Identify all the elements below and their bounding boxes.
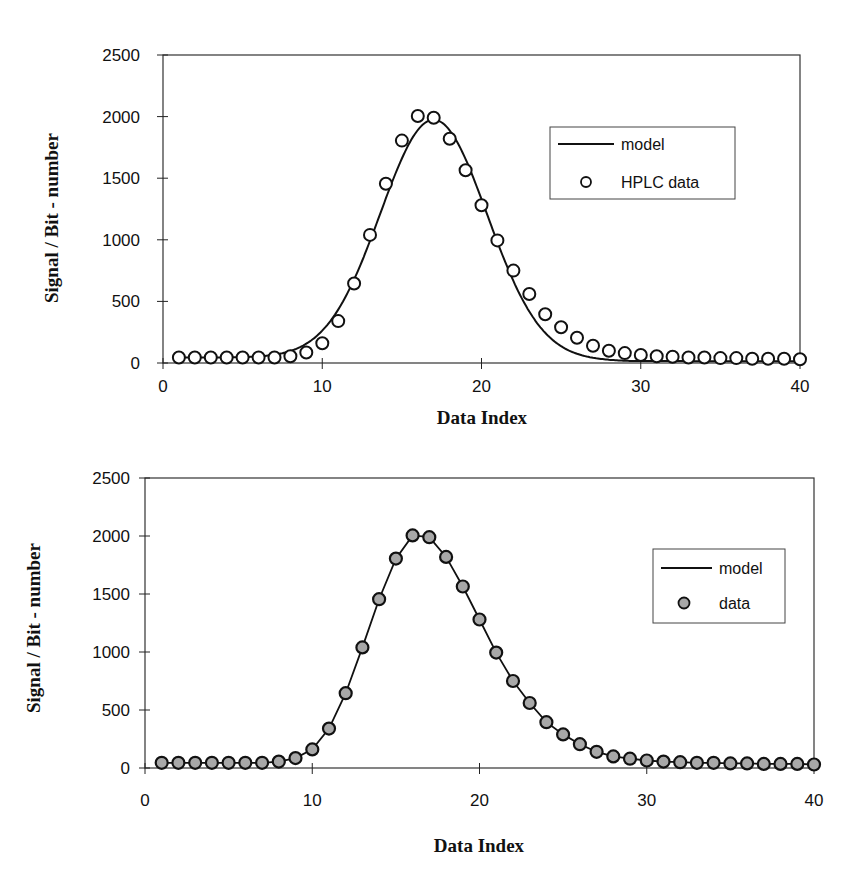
- data-point: [156, 757, 168, 769]
- data-point: [256, 757, 268, 769]
- data-point: [332, 315, 344, 327]
- figure: 05001000150020002500 010203040 Data Inde…: [0, 0, 868, 894]
- data-point: [708, 757, 720, 769]
- data-point: [746, 353, 758, 365]
- y-tick-label: 500: [102, 701, 130, 720]
- data-point: [428, 112, 440, 124]
- data-point: [290, 752, 302, 764]
- x-axis-label-bottom: Data Index: [434, 835, 525, 856]
- data-point: [173, 352, 185, 364]
- data-point: [540, 716, 552, 728]
- data-point: [380, 178, 392, 190]
- data-point: [730, 352, 742, 364]
- data-point: [491, 234, 503, 246]
- data-point: [651, 350, 663, 362]
- x-tick-label: 20: [472, 377, 491, 396]
- data-point: [348, 278, 360, 290]
- legend-gray-circle-icon: [679, 598, 690, 609]
- x-axis-ticks-bottom: 010203040: [140, 763, 823, 810]
- data-point: [356, 641, 368, 653]
- y-axis-ticks-bottom: 05001000150020002500: [92, 469, 150, 778]
- data-point: [667, 351, 679, 363]
- legend-data-label: HPLC data: [621, 174, 699, 191]
- data-point: [658, 756, 670, 768]
- x-tick-label: 30: [637, 791, 656, 810]
- data-point: [619, 347, 631, 359]
- data-point: [490, 647, 502, 659]
- y-tick-label: 2000: [102, 108, 140, 127]
- data-point: [396, 135, 408, 147]
- data-point: [440, 551, 452, 563]
- x-tick-label: 20: [470, 791, 489, 810]
- data-point: [407, 529, 419, 541]
- data-point: [698, 352, 710, 364]
- data-point: [691, 757, 703, 769]
- chart-top: 05001000150020002500 010203040 Data Inde…: [41, 46, 809, 428]
- y-tick-label: 0: [131, 354, 140, 373]
- data-point: [189, 757, 201, 769]
- data-point: [808, 759, 820, 771]
- data-point: [523, 288, 535, 300]
- data-point: [172, 757, 184, 769]
- data-point: [571, 332, 583, 344]
- legend-open-circle-icon: [581, 177, 591, 187]
- data-point: [524, 697, 536, 709]
- data-point: [591, 746, 603, 758]
- y-tick-label: 1000: [102, 231, 140, 250]
- data-point: [557, 728, 569, 740]
- data-point: [574, 738, 586, 750]
- y-tick-label: 500: [112, 292, 140, 311]
- legend-data-label: data: [719, 595, 750, 612]
- data-point: [641, 755, 653, 767]
- data-point: [724, 757, 736, 769]
- data-point: [323, 723, 335, 735]
- data-point: [476, 199, 488, 211]
- data-point: [316, 337, 328, 349]
- chart-bottom: 05001000150020002500 010203040 Data Inde…: [23, 469, 823, 856]
- x-tick-label: 10: [303, 791, 322, 810]
- data-point: [364, 229, 376, 241]
- data-point: [587, 340, 599, 352]
- data-point: [775, 758, 787, 770]
- y-tick-label: 1000: [92, 643, 130, 662]
- y-axis-label-bottom: Signal / Bit - number: [23, 542, 44, 713]
- data-point: [237, 352, 249, 364]
- legend-model-label: model: [719, 560, 763, 577]
- x-tick-label: 10: [313, 377, 332, 396]
- data-point: [507, 675, 519, 687]
- y-tick-label: 2000: [92, 527, 130, 546]
- y-tick-label: 2500: [102, 46, 140, 65]
- data-point: [373, 593, 385, 605]
- data-point: [683, 352, 695, 364]
- data-point: [253, 352, 265, 364]
- data-point: [223, 757, 235, 769]
- data-point: [412, 110, 424, 122]
- y-axis-label-top: Signal / Bit - number: [41, 132, 62, 303]
- data-point: [306, 743, 318, 755]
- data-point: [741, 757, 753, 769]
- y-tick-label: 2500: [92, 469, 130, 488]
- data-point: [635, 349, 647, 361]
- data-point: [607, 750, 619, 762]
- x-tick-label: 40: [791, 377, 810, 396]
- legend-bottom: model data: [653, 549, 785, 623]
- data-point: [189, 352, 201, 364]
- x-tick-label: 0: [158, 377, 167, 396]
- data-point: [791, 758, 803, 770]
- data-point: [778, 353, 790, 365]
- x-tick-label: 40: [805, 791, 824, 810]
- data-point: [674, 756, 686, 768]
- legend-top: model HPLC data: [550, 127, 735, 199]
- data-point: [269, 352, 281, 364]
- data-point: [460, 164, 472, 176]
- data-point: [340, 687, 352, 699]
- y-axis-ticks-top: 05001000150020002500: [102, 46, 168, 373]
- x-tick-label: 30: [631, 377, 650, 396]
- data-point: [539, 308, 551, 320]
- data-point: [284, 350, 296, 362]
- data-point: [762, 353, 774, 365]
- data-point: [273, 756, 285, 768]
- data-point: [603, 345, 615, 357]
- data-point: [758, 758, 770, 770]
- x-axis-label-top: Data Index: [437, 407, 528, 428]
